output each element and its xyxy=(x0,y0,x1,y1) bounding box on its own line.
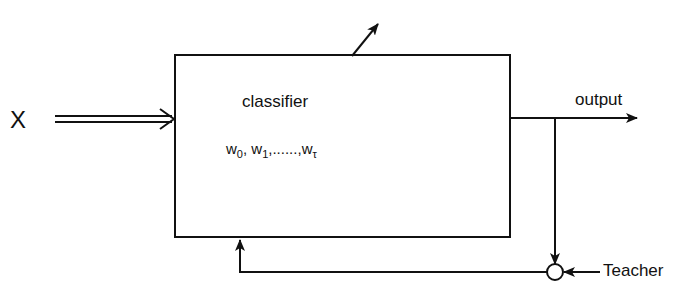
output-label: output xyxy=(575,90,622,110)
input-label: X xyxy=(10,106,26,134)
comparator-node xyxy=(547,264,563,280)
teacher-label: Teacher xyxy=(603,261,663,281)
feedback-path xyxy=(240,240,547,272)
classifier-label: classifier xyxy=(242,92,308,112)
weights-label: w0, w1,......,wτ xyxy=(226,140,317,160)
input-double-arrow xyxy=(55,109,174,129)
adaptive-arrow xyxy=(352,24,378,56)
diagram-canvas xyxy=(0,0,697,298)
